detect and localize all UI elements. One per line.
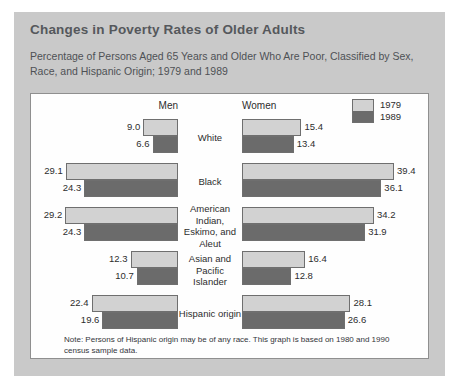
women-bar-group: 28.126.6	[242, 292, 430, 336]
value-label-women-1979: 34.2	[377, 209, 396, 220]
men-bar-group: 12.310.7	[31, 248, 178, 292]
women-bar-group: 15.413.4	[242, 116, 430, 160]
bar-men-1989	[137, 268, 178, 285]
chart-row: 12.310.7Asian and Pacific Islander16.412…	[31, 248, 428, 292]
value-label-men-1979: 29.1	[44, 165, 63, 176]
men-bar-group: 9.06.6	[31, 116, 178, 160]
value-label-women-1989: 12.8	[294, 270, 313, 281]
column-header-women: Women	[242, 100, 276, 111]
category-label: Asian and Pacific Islander	[178, 253, 242, 288]
value-label-women-1979: 39.4	[397, 165, 416, 176]
chart-row: 9.06.6White15.413.4	[31, 116, 428, 160]
bar-men-1979	[131, 251, 178, 268]
value-label-women-1979: 16.4	[308, 253, 327, 264]
bar-men-1979	[66, 163, 178, 180]
men-bar-group: 29.224.3	[31, 204, 178, 248]
bar-women-1979	[242, 207, 374, 224]
value-label-women-1979: 28.1	[353, 297, 372, 308]
value-label-women-1989: 13.4	[297, 138, 316, 149]
value-label-women-1989: 31.9	[368, 226, 387, 237]
bar-men-1989	[102, 312, 178, 329]
legend-swatch-1979	[353, 100, 373, 111]
chart-panel: Men Women 1979 1989 9.06.6White15.413.42…	[30, 93, 429, 359]
women-bar-group: 16.412.8	[242, 248, 430, 292]
bar-women-1989	[242, 268, 291, 285]
bar-men-1979	[65, 207, 178, 224]
bar-men-1989	[84, 224, 178, 241]
chart-rows: 9.06.6White15.413.429.124.3Black39.436.1…	[31, 116, 428, 336]
value-label-women-1989: 36.1	[384, 182, 403, 193]
column-header-men: Men	[31, 100, 178, 111]
bar-women-1979	[242, 251, 305, 268]
bar-men-1979	[92, 295, 178, 312]
bar-women-1979	[242, 295, 350, 312]
value-label-men-1979: 29.2	[44, 209, 63, 220]
value-label-men-1979: 12.3	[109, 253, 128, 264]
bar-women-1989	[242, 224, 365, 241]
chart-page: Changes in Poverty Rates of Older Adults…	[0, 0, 459, 388]
bar-women-1989	[242, 180, 381, 197]
page-title: Changes in Poverty Rates of Older Adults	[30, 22, 305, 37]
value-label-men-1979: 22.4	[70, 297, 89, 308]
bar-men-1989	[153, 136, 178, 153]
value-label-men-1979: 9.0	[127, 121, 140, 132]
category-label: White	[178, 132, 242, 144]
value-label-women-1979: 15.4	[304, 121, 323, 132]
bar-men-1989	[84, 180, 178, 197]
chart-row: 29.224.3American Indian, Eskimo, and Ale…	[31, 204, 428, 248]
chart-row: 29.124.3Black39.436.1	[31, 160, 428, 204]
value-label-men-1989: 24.3	[63, 226, 82, 237]
legend-label-1979: 1979	[380, 99, 401, 111]
bar-women-1989	[242, 312, 345, 329]
value-label-women-1989: 26.6	[348, 314, 367, 325]
men-bar-group: 29.124.3	[31, 160, 178, 204]
value-label-men-1989: 6.6	[136, 138, 149, 149]
bar-women-1979	[242, 119, 301, 136]
women-bar-group: 34.231.9	[242, 204, 430, 248]
chart-note: Note: Persons of Hispanic origin may be …	[64, 334, 394, 356]
chart-card: Changes in Poverty Rates of Older Adults…	[14, 12, 445, 376]
bar-women-1989	[242, 136, 294, 153]
men-bar-group: 22.419.6	[31, 292, 178, 336]
value-label-men-1989: 10.7	[115, 270, 134, 281]
category-label: American Indian, Eskimo, and Aleut	[178, 203, 242, 249]
category-label: Hispanic origin	[178, 308, 242, 320]
category-label: Black	[178, 176, 242, 188]
value-label-men-1989: 24.3	[63, 182, 82, 193]
value-label-men-1989: 19.6	[81, 314, 100, 325]
page-subtitle: Percentage of Persons Aged 65 Years and …	[30, 49, 432, 79]
bar-women-1979	[242, 163, 394, 180]
chart-row: 22.419.6Hispanic origin28.126.6	[31, 292, 428, 336]
bar-men-1979	[143, 119, 178, 136]
women-bar-group: 39.436.1	[242, 160, 430, 204]
